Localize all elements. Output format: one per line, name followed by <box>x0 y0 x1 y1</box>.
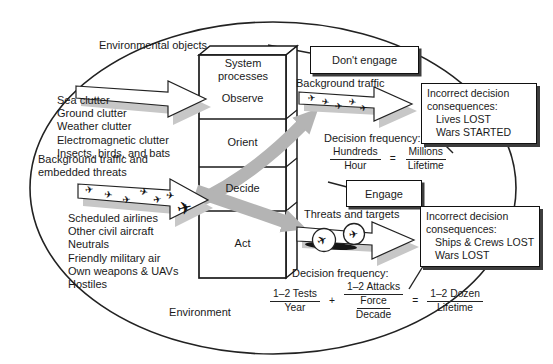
fraction: Hundreds Hour <box>330 146 381 173</box>
dont-engage-box: Don't engage <box>310 46 419 74</box>
aircraft-icon: ✈ <box>122 194 131 206</box>
list-item: Other civil aircraft <box>68 225 178 238</box>
fraction-numerator: 1–2 Tests <box>270 288 320 302</box>
background-traffic-arrow-icon: ✈ ✈ ✈ ✈ ✈ <box>299 87 417 128</box>
fraction-numerator: Force <box>357 295 389 309</box>
targeted-aircraft-icon: ✈ <box>348 227 359 241</box>
fraction-numerator: Millions <box>406 146 446 160</box>
fraction-denominator: Lifetime <box>434 302 476 315</box>
plus-sign: + <box>328 295 336 308</box>
ooda-decision-diagram: ✈ ✈ ✈ ✈ ✈ ✈ ✈ ✈ ✈ ✈ ✈ ✈ <box>0 0 553 364</box>
fraction-numerator: 1–2 Attacks <box>344 281 403 295</box>
equals-sign: = <box>389 153 397 166</box>
fraction-numerator: 1–2 Dozen <box>427 288 483 302</box>
clutter-list: Sea clutter Ground clutter Weather clutt… <box>57 94 170 160</box>
aircraft-icon: ✈ <box>104 189 114 201</box>
stage-label-orient: Orient <box>199 136 286 149</box>
fraction: Millions Lifetime <box>405 146 447 173</box>
consequence-item: Wars STARTED <box>427 126 531 139</box>
consequences-heading: Incorrect decision consequences: <box>427 87 531 113</box>
threats-targets-label: Threats and targets <box>304 208 399 221</box>
fraction-denominator: Lifetime <box>405 160 447 173</box>
list-item: Own weapons & UAVs <box>68 265 178 278</box>
environment-label: Environment <box>145 306 255 319</box>
column-header: System processes <box>212 57 274 83</box>
frequency-equation-bottom: 1–2 Tests Year + 1–2 Attacks Force Decad… <box>270 281 483 322</box>
fraction-denominator: Year <box>282 302 309 315</box>
env-objects-label: Environmental objects <box>98 39 208 52</box>
fraction-numerator: Hundreds <box>330 146 381 160</box>
list-item: Weather clutter <box>57 120 170 133</box>
consequences-box-dont-engage: Incorrect decision consequences: Lives L… <box>421 83 537 144</box>
frequency-equation-top: Hundreds Hour = Millions Lifetime <box>330 146 447 173</box>
decision-frequency-label-bottom: Decision frequency: <box>292 267 389 280</box>
stage-label-decide: Decide <box>199 182 286 195</box>
threats-targets-arrow-icon: ✈ ✈ <box>297 222 419 266</box>
stage-label-observe: Observe <box>199 92 286 105</box>
list-item: Hostiles <box>68 278 178 291</box>
consequences-box-engage: Incorrect decision consequences: Ships &… <box>420 206 540 267</box>
background-traffic-label: Background traffic <box>296 77 384 90</box>
list-item: Ground clutter <box>57 107 170 120</box>
stage-label-act: Act <box>199 237 286 250</box>
embedded-threats-label: Background traffic and embedded threats <box>38 153 188 179</box>
fraction: 1–2 Tests Year <box>270 288 320 315</box>
consequences-heading: Incorrect decision consequences: <box>426 210 534 236</box>
equals-sign: = <box>411 295 419 308</box>
leader-engage <box>328 182 347 187</box>
fraction-denominator: Hour <box>341 160 369 173</box>
list-item: Friendly military air <box>68 252 178 265</box>
consequence-item: Lives LOST <box>427 113 531 126</box>
engage-box: Engage <box>346 180 422 207</box>
list-item: Neutrals <box>68 238 178 251</box>
column-top-face <box>199 46 297 55</box>
aircraft-icon: ✈ <box>334 101 343 112</box>
fraction: 1–2 Dozen Lifetime <box>427 288 483 315</box>
consequence-item: Wars LOST <box>426 249 534 262</box>
nested-fraction: 1–2 Attacks Force Decade <box>344 281 403 322</box>
list-item: Sea clutter <box>57 94 170 107</box>
fraction: Force Decade <box>353 295 395 322</box>
consequence-item: Ships & Crews LOST <box>426 236 534 249</box>
fraction-denominator: Decade <box>353 309 395 322</box>
list-item: Scheduled airlines <box>68 212 178 225</box>
decision-frequency-label-top: Decision frequency: <box>324 132 421 145</box>
aircraft-types-list: Scheduled airlines Other civil aircraft … <box>68 212 178 291</box>
list-item: Electromagnetic clutter <box>57 134 170 147</box>
